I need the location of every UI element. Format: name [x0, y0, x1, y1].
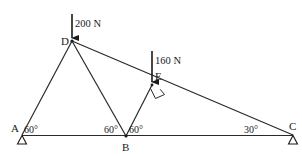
member-DB [72, 41, 126, 136]
joint-D [70, 39, 73, 42]
node-label-B: B [122, 141, 129, 153]
load-label-E: 160 N [155, 55, 181, 66]
joint-E [151, 84, 154, 87]
truss-diagram: 200 N 160 N D E A B C 60° 60° 60° 30° [0, 0, 302, 156]
node-label-C: C [289, 120, 296, 132]
angle-label-B-left: 60° [104, 124, 118, 135]
load-label-D: 200 N [75, 18, 101, 29]
node-label-D: D [61, 35, 69, 47]
node-label-E: E [155, 70, 162, 82]
member-AD [22, 41, 72, 135]
member-DC [72, 41, 293, 135]
angle-label-C: 30° [244, 124, 258, 135]
node-label-A: A [11, 122, 19, 134]
right-angle-marker [151, 89, 165, 99]
joints [70, 39, 153, 137]
angle-label-A: 60° [24, 124, 38, 135]
support-C-icon [289, 136, 298, 145]
support-A-icon [18, 136, 27, 145]
angle-label-B-right: 60° [129, 124, 143, 135]
joint-B [124, 134, 127, 137]
